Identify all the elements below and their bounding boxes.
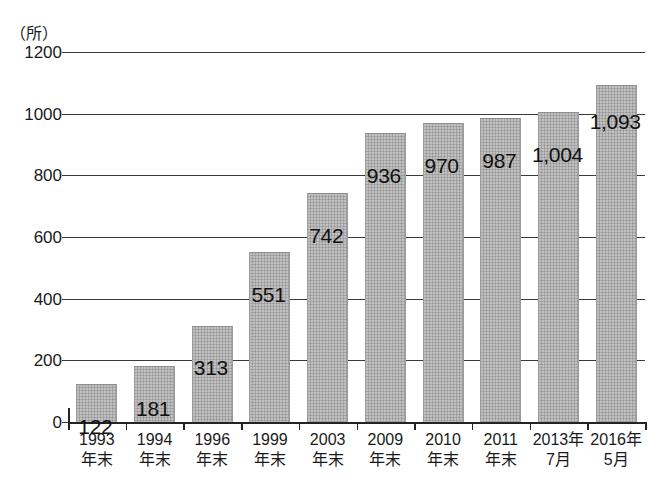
x-axis-category-label: 2009年末 (357, 430, 415, 470)
y-axis-tick-mark (62, 299, 69, 300)
x-axis-tick-mark (68, 422, 70, 430)
x-axis-tick-mark (414, 422, 416, 430)
x-axis-tick-mark (183, 422, 185, 430)
plot-area: 0200400600800100012001221813135517429369… (68, 52, 645, 422)
bar-value-label: 987 (482, 150, 516, 171)
x-label-line-1: 2009 (357, 430, 415, 450)
x-label-line-2: 年末 (68, 450, 126, 470)
x-label-line-1: 2016年 (587, 430, 645, 450)
bar-value-label: 1,093 (590, 111, 641, 132)
bar-chart: （所） 020040060080010001200122181313551742… (0, 0, 660, 486)
x-axis-category-label: 2013年7月 (530, 430, 588, 470)
x-axis-category-label: 1996年末 (183, 430, 241, 470)
x-axis-category-label: 1999年末 (241, 430, 299, 470)
x-axis-category-label: 2010年末 (414, 430, 472, 470)
x-label-line-1: 1996 (183, 430, 241, 450)
y-axis-unit-label: （所） (10, 20, 58, 44)
bar (596, 85, 637, 422)
x-label-line-1: 1999 (241, 430, 299, 450)
y-axis-tick-label: 600 (10, 229, 62, 246)
x-axis-tick-mark (357, 422, 359, 430)
x-axis-tick-mark (645, 422, 647, 430)
y-axis-tick-mark (62, 360, 69, 361)
y-axis-tick-label: 1000 (10, 105, 62, 122)
bar-value-label: 742 (309, 225, 343, 246)
bar-value-label: 181 (136, 398, 170, 419)
x-axis-tick-mark (299, 422, 301, 430)
x-axis-tick-mark (126, 422, 128, 430)
y-axis-spine (68, 408, 70, 422)
x-label-line-1: 1994 (126, 430, 184, 450)
y-axis-tick-mark (62, 114, 69, 115)
gridline (68, 52, 645, 53)
x-label-line-2: 年末 (299, 450, 357, 470)
bar-value-label: 936 (367, 165, 401, 186)
x-label-line-2: 年末 (472, 450, 530, 470)
x-axis-category-label: 1993年末 (68, 430, 126, 470)
bar-value-label: 551 (251, 284, 285, 305)
x-axis-tick-mark (587, 422, 589, 430)
x-label-line-2: 5月 (587, 450, 645, 470)
x-axis-tick-mark (472, 422, 474, 430)
bar-value-label: 1,004 (532, 144, 583, 165)
x-label-line-1: 1993 (68, 430, 126, 450)
x-label-line-1: 2011 (472, 430, 530, 450)
x-label-line-1: 2010 (414, 430, 472, 450)
x-axis-tick-mark (241, 422, 243, 430)
y-axis-tick-label: 400 (10, 290, 62, 307)
x-axis-tick-mark (530, 422, 532, 430)
x-label-line-2: 年末 (357, 450, 415, 470)
x-axis-category-label: 1994年末 (126, 430, 184, 470)
x-axis-category-label: 2016年5月 (587, 430, 645, 470)
x-label-line-2: 年末 (183, 450, 241, 470)
y-axis-tick-mark (62, 175, 69, 176)
y-axis-tick-label: 0 (10, 414, 62, 431)
x-label-line-2: 7月 (530, 450, 588, 470)
y-axis-tick-label: 1200 (10, 44, 62, 61)
bar (249, 252, 290, 422)
y-axis-tick-label: 800 (10, 167, 62, 184)
y-axis-tick-mark (62, 52, 69, 53)
x-label-line-1: 2013年 (530, 430, 588, 450)
x-label-line-1: 2003 (299, 430, 357, 450)
y-axis-tick-label: 200 (10, 352, 62, 369)
y-axis-tick-mark (62, 237, 69, 238)
x-label-line-2: 年末 (241, 450, 299, 470)
x-axis-category-label: 2003年末 (299, 430, 357, 470)
x-label-line-2: 年末 (126, 450, 184, 470)
bar-value-label: 313 (194, 357, 228, 378)
x-axis-category-label: 2011年末 (472, 430, 530, 470)
x-label-line-2: 年末 (414, 450, 472, 470)
bar-value-label: 970 (425, 155, 459, 176)
